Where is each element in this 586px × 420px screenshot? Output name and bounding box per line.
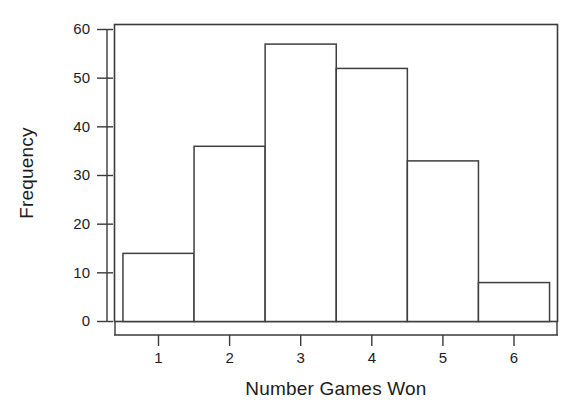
y-axis-tick-label: 40: [73, 118, 90, 135]
y-axis-tick-label: 0: [82, 312, 90, 329]
histogram-bar: 3: 57: [265, 44, 336, 321]
histogram-bars: 1: 142: 363: 574: 525: 336: 8: [123, 44, 550, 321]
histogram-figure: Frequency Number Games Won 0102030405060…: [0, 0, 586, 420]
x-axis-tick-label: 1: [154, 349, 162, 366]
y-axis-tick-label: 30: [73, 166, 90, 183]
histogram-bar: 5: 33: [407, 161, 478, 322]
y-axis: 0102030405060: [73, 20, 113, 329]
x-axis-tick-label: 2: [225, 349, 233, 366]
x-axis: 123456: [114, 322, 558, 367]
x-axis-tick-label: 5: [439, 349, 447, 366]
histogram-bar: 1: 14: [123, 253, 194, 321]
histogram-plot-area: 0102030405060 123456 1: 142: 363: 574: 5…: [0, 0, 586, 420]
histogram-bar: 2: 36: [194, 146, 265, 321]
x-axis-tick-label: 3: [297, 349, 305, 366]
histogram-bar: 4: 52: [336, 68, 407, 321]
x-axis-tick-label: 6: [510, 349, 518, 366]
y-axis-tick-label: 50: [73, 69, 90, 86]
y-axis-tick-label: 10: [73, 264, 90, 281]
histogram-bar: 6: 8: [478, 283, 549, 322]
y-axis-tick-label: 20: [73, 215, 90, 232]
x-axis-tick-label: 4: [368, 349, 376, 366]
y-axis-tick-label: 60: [73, 20, 90, 37]
